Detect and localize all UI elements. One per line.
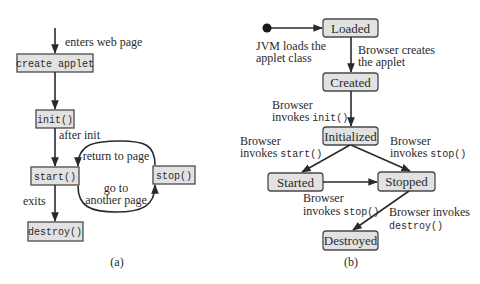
box-stop-label: stop() xyxy=(156,171,192,182)
label-invokes-stop2-2: invokes stop() xyxy=(303,204,379,218)
label-another-page: another page xyxy=(85,193,147,207)
state-loaded-label: Loaded xyxy=(331,21,370,36)
label-invokes-init-2: invokes init() xyxy=(272,110,348,124)
panel-b: Loaded JVM loads the applet class Browse… xyxy=(240,19,470,269)
applet-lifecycle-diagram: enters web page create applet init() aft… xyxy=(0,0,480,284)
label-enters-web-page: enters web page xyxy=(65,35,142,49)
state-initialized-label: Initialized xyxy=(324,129,377,144)
label-exits: exits xyxy=(23,194,46,208)
label-invokes-start-2: invokes start() xyxy=(240,146,322,160)
label-invokes-stop2-1: Browser xyxy=(303,191,344,205)
state-created-label: Created xyxy=(330,75,371,90)
label-invokes-stop-2: invokes stop() xyxy=(390,146,466,160)
label-after-init: after init xyxy=(59,128,101,142)
label-invokes-destroy-2: destroy() xyxy=(389,221,443,232)
initial-state-dot xyxy=(263,24,272,33)
state-stopped-label: Stopped xyxy=(385,174,428,189)
label-return-to-page: return to page xyxy=(83,149,150,163)
box-init-label: init() xyxy=(37,115,73,126)
caption-b: (b) xyxy=(344,255,358,269)
box-create-applet-label: create applet xyxy=(16,59,94,70)
panel-a: enters web page create applet init() aft… xyxy=(16,28,195,269)
label-invokes-destroy-1: Browser invokes xyxy=(389,205,470,219)
state-destroyed-label: Destroyed xyxy=(324,233,378,248)
label-browser-creates-2: the applet xyxy=(358,55,406,69)
box-start-label: start() xyxy=(34,172,76,183)
box-destroy-label: destroy() xyxy=(28,227,82,238)
label-jvm-loads-2: applet class xyxy=(256,51,312,65)
caption-a: (a) xyxy=(110,255,123,269)
state-started-label: Started xyxy=(277,175,314,190)
